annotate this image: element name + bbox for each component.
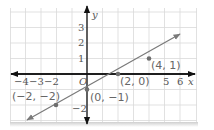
x-axis-label: x xyxy=(188,76,194,87)
x-tick-neg3: −3 xyxy=(29,76,44,87)
x-tick-5: 5 xyxy=(163,76,169,87)
point-neg2-neg2 xyxy=(54,103,59,108)
x-tick-neg2: −2 xyxy=(44,76,59,87)
y-tick-neg2: −2 xyxy=(72,103,87,114)
x-tick-6: 6 xyxy=(177,76,183,87)
y-tick-3: 3 xyxy=(78,22,84,33)
coordinate-plane: −4 −3 −2 5 6 3 2 1 −2 O x y (−2, −2) (0,… xyxy=(0,0,214,130)
y-axis-label: y xyxy=(91,9,98,20)
point-0-neg1 xyxy=(85,87,90,92)
point-label-neg2-neg2: (−2, −2) xyxy=(12,90,60,103)
point-label-0-neg1: (0, −1) xyxy=(90,91,129,104)
point-label-4-1: (4, 1) xyxy=(151,59,181,72)
point-label-2-0: (2, 0) xyxy=(120,75,150,88)
y-tick-1: 1 xyxy=(78,53,84,64)
grid-shadow xyxy=(10,122,198,127)
x-tick-neg4: −4 xyxy=(14,76,29,87)
y-tick-2: 2 xyxy=(78,37,84,48)
origin-label: O xyxy=(79,76,87,87)
